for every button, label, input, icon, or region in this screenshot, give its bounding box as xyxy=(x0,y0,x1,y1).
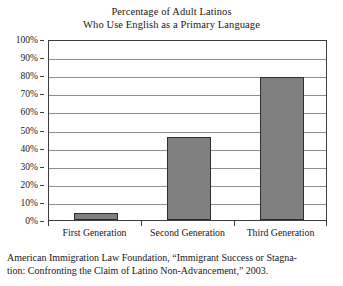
y-tick-mark xyxy=(40,112,44,113)
bar-chart-figure: Percentage of Adult Latinos Who Use Engl… xyxy=(0,0,343,286)
y-tick-label: 60% xyxy=(21,107,38,117)
y-tick-label: 40% xyxy=(21,144,38,154)
y-tick-mark xyxy=(40,167,44,168)
y-tick-mark xyxy=(40,203,44,204)
y-tick-label: 10% xyxy=(21,198,38,208)
x-tick-mark xyxy=(234,221,235,226)
x-tick-label: Third Generation xyxy=(247,227,315,239)
y-tick-label: 90% xyxy=(21,53,38,63)
y-tick-mark xyxy=(40,221,44,222)
bar xyxy=(74,213,118,220)
x-tick-label: First Generation xyxy=(63,227,127,239)
y-tick-label: 0% xyxy=(25,216,38,226)
y-tick-mark xyxy=(40,185,44,186)
x-tick-mark xyxy=(48,221,49,226)
x-tick-mark xyxy=(141,221,142,226)
source-note-line-1: American Immigration Law Foundation, “Im… xyxy=(7,252,337,265)
x-axis: First GenerationSecond GenerationThird G… xyxy=(48,221,327,249)
y-tick-label: 80% xyxy=(21,71,38,81)
plot-area xyxy=(48,40,327,221)
y-tick-label: 70% xyxy=(21,89,38,99)
y-tick-mark xyxy=(40,76,44,77)
gridline xyxy=(49,59,326,60)
y-tick-label: 100% xyxy=(16,35,38,45)
y-tick-label: 20% xyxy=(21,180,38,190)
y-tick-label: 30% xyxy=(21,162,38,172)
y-tick-mark xyxy=(40,58,44,59)
x-tick-label: Second Generation xyxy=(150,227,225,239)
y-tick-mark xyxy=(40,40,44,41)
y-tick-mark xyxy=(40,94,44,95)
chart-title-line-1: Percentage of Adult Latinos xyxy=(0,6,343,19)
bar xyxy=(260,77,304,220)
bar xyxy=(167,137,211,220)
chart-title: Percentage of Adult Latinos Who Use Engl… xyxy=(0,6,343,31)
source-note-line-2: tion: Confronting the Claim of Latino No… xyxy=(7,265,337,278)
y-tick-label: 50% xyxy=(21,126,38,136)
x-tick-mark xyxy=(326,221,327,226)
y-axis: 0%10%20%30%40%50%60%70%80%90%100% xyxy=(0,40,44,221)
y-tick-mark xyxy=(40,149,44,150)
y-tick-mark xyxy=(40,131,44,132)
source-note: American Immigration Law Foundation, “Im… xyxy=(7,252,337,277)
chart-title-line-2: Who Use English as a Primary Language xyxy=(0,19,343,32)
